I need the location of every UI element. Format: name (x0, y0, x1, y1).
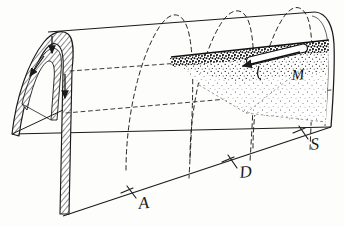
label-D: D (237, 162, 253, 182)
tunnel-vault-drawing: A D S M (0, 0, 344, 227)
label-A: A (136, 193, 150, 213)
tick-D (228, 155, 237, 168)
dashed-rib-1 (126, 15, 193, 178)
stippled-shaded-zone (170, 40, 329, 124)
left-arch-cut-section (12, 32, 73, 214)
arch-soffit-mouth (22, 104, 51, 120)
figure-canvas: A D S M (0, 0, 344, 227)
back-base-edge (12, 127, 331, 134)
front-base-edge-A (63, 127, 331, 216)
ridge-line (48, 12, 315, 32)
label-S: S (309, 134, 320, 154)
